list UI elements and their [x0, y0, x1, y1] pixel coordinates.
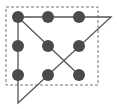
dot-9: [73, 69, 85, 81]
dot-2: [42, 11, 54, 23]
dot-8: [42, 69, 54, 81]
dot-1: [12, 11, 24, 23]
dot-7: [12, 69, 24, 81]
dot-5: [42, 40, 54, 52]
dot-3: [73, 11, 85, 23]
dot-6: [73, 40, 85, 52]
nine-dots-diagram: [0, 0, 117, 109]
dot-4: [12, 40, 24, 52]
